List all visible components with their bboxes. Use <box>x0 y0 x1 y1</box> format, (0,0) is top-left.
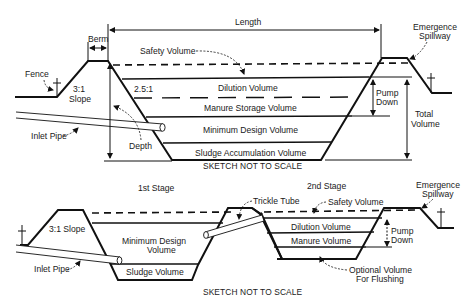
inner-slope-ratio: 2.5:1 <box>134 84 153 94</box>
safety-level-line <box>113 63 408 65</box>
minimum-design-bottom-line <box>163 142 331 143</box>
manure-storage-volume-label: Manure Storage Volume <box>204 103 297 113</box>
stage1-label: 1st Stage <box>138 183 175 193</box>
fence-icon-right <box>427 73 435 93</box>
safety-volume-leader <box>196 51 244 74</box>
emergence-spillway-label-2: Spillway <box>419 31 451 41</box>
sludge-accumulation-volume-label: Sludge Accumulation Volume <box>195 148 307 158</box>
dilution-volume-label: Dilution Volume <box>218 83 278 93</box>
depth-label: Depth <box>129 141 152 151</box>
stage2-label: 2nd Stage <box>307 181 346 191</box>
stage1-inlet-pipe-label: Inlet Pipe <box>34 264 70 274</box>
optional-volume-label-2: For Flushing <box>356 274 404 284</box>
lagoon-diagrams: Length Berm Fence 3:1 Slope 2.5:1 Safety… <box>0 0 474 307</box>
safety-volume-label: Safety Volume <box>140 46 196 56</box>
stage1-safety-line <box>92 212 235 213</box>
stage1-slope-label: 3:1 Slope <box>49 224 86 234</box>
stage2-safety-line <box>264 210 420 212</box>
trickle-tube <box>204 215 264 238</box>
minimum-design-volume-label-2: Volume <box>147 245 176 255</box>
emergence-spillway-leader <box>410 42 427 59</box>
sludge-volume-label: Sludge Volume <box>126 267 184 277</box>
fence-icon-bottom-left <box>18 225 26 245</box>
fence-icon-bottom-right <box>437 208 445 227</box>
stage2-manure-volume-label: Manure Volume <box>291 236 351 246</box>
stage2-emergence-spillway-leader <box>422 199 433 208</box>
dilution-bottom-dashed-line <box>134 97 358 98</box>
stage2-dilution-bottom-line <box>267 232 374 233</box>
trickle-tube-label: Trickle Tube <box>253 196 300 206</box>
total-volume-label-2: Volume <box>411 119 440 129</box>
berm-label: Berm <box>88 34 109 44</box>
total-volume-label-1: Total <box>415 109 433 119</box>
sketch-note-top: SKETCH NOT TO SCALE <box>203 161 302 171</box>
outer-slope-ratio: 3:1 <box>73 84 85 94</box>
stage2-pump-down-label-2: Down <box>391 235 413 245</box>
trickle-tube-leader <box>239 201 252 219</box>
stage2-safety-volume-label: Safety Volume <box>328 197 384 207</box>
manure-storage-bottom-line <box>146 116 352 117</box>
dilution-top-line <box>122 77 369 79</box>
fence-leader <box>44 80 53 90</box>
pump-down-label-2: Down <box>376 97 398 107</box>
second-stage-basin <box>261 208 454 259</box>
two-stage-lagoon-diagram: 1st Stage 2nd Stage 3:1 Slope Minimum De… <box>16 180 460 297</box>
length-label: Length <box>235 17 262 27</box>
fence-label: Fence <box>25 69 49 79</box>
minimum-design-volume-label: Minimum Design Volume <box>203 125 298 135</box>
sketch-note-bottom: SKETCH NOT TO SCALE <box>203 287 302 297</box>
stage2-emergence-spillway-label-2: Spillway <box>422 189 454 199</box>
outer-slope-label: Slope <box>69 94 91 104</box>
stage2-dilution-volume-label: Dilution Volume <box>291 222 351 232</box>
single-stage-lagoon-diagram: Length Berm Fence 3:1 Slope 2.5:1 Safety… <box>15 17 457 171</box>
inlet-pipe-label: Inlet Pipe <box>31 131 67 141</box>
